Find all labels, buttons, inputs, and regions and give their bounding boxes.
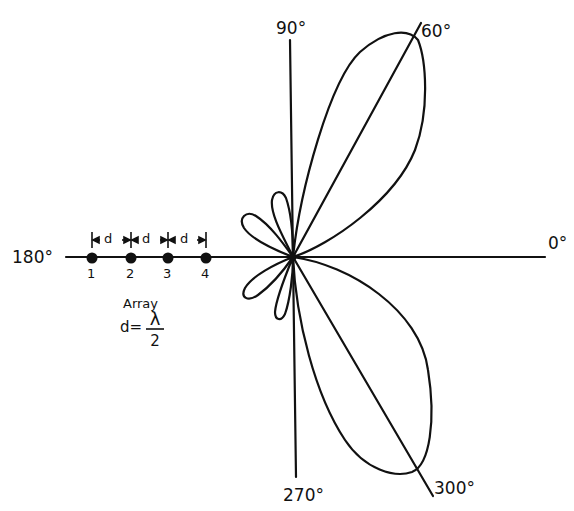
label-0-deg: 0° [548, 235, 567, 252]
direction-line-60 [293, 23, 421, 257]
element-number-4: 4 [201, 267, 209, 280]
side-lobe-upper-1 [272, 192, 293, 257]
center-point [290, 254, 297, 261]
main-lobe-300 [293, 257, 431, 474]
polar-plot [0, 0, 574, 511]
spacing-label-1: d [104, 232, 112, 245]
side-lobe-upper-2 [242, 214, 293, 257]
formula-lhs: d= [120, 320, 142, 335]
element-number-2: 2 [126, 267, 134, 280]
side-lobe-lower-1 [275, 257, 293, 319]
array-element-4 [201, 253, 212, 264]
array-element-1 [87, 253, 98, 264]
formula-denominator: 2 [146, 332, 164, 350]
element-number-1: 1 [87, 267, 95, 280]
label-300-deg: 300° [434, 480, 475, 497]
label-90-deg: 90° [276, 20, 306, 37]
formula-numerator: λ [146, 308, 164, 329]
array-element-3 [163, 253, 174, 264]
label-60-deg: 60° [421, 23, 451, 40]
spacing-label-3: d [180, 232, 188, 245]
main-lobe-60 [293, 33, 425, 257]
label-180-deg: 180° [12, 249, 53, 266]
element-number-3: 3 [163, 267, 171, 280]
array-element-2 [126, 253, 137, 264]
label-270-deg: 270° [283, 487, 324, 504]
spacing-label-2: d [142, 232, 150, 245]
radiation-pattern-diagram: 90° 60° 0° 180° 270° 300° d d d 1 2 3 4 … [0, 0, 574, 511]
